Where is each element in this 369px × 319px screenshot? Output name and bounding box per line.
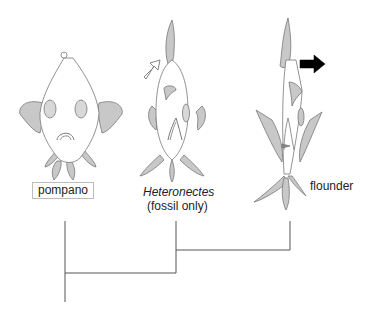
heteronectes-right-fin [196,106,205,130]
cladogram-tree [65,221,290,302]
diagram-canvas [0,0,369,319]
taxon-label-flounder: flounder [310,180,353,193]
heteronectes-pelvic-right [180,155,204,176]
heteronectes-dorsal-fin [166,20,174,64]
pompano-left-eye [44,100,56,118]
taxon-subtitle-heteronectes: (fossil only) [147,200,208,213]
taxon-label-heteronectes: Heteronectes [143,186,214,199]
flounder-eye [298,108,304,126]
heteronectes-tail-fin [170,160,175,182]
pompano-right-eye [75,100,87,118]
flounder-tail-fin [282,178,289,210]
heteronectes-eye [183,104,190,122]
pompano-anal-fin-left [52,161,61,180]
heteronectes-pelvic-left [140,155,164,176]
pompano-anal-fin-right [67,161,75,180]
solid-arrow-icon [300,55,325,73]
diagram: pompano Heteronectes (fossil only) floun… [0,0,369,319]
taxon-label-pompano: pompano [32,182,94,199]
pompano-illustration [20,52,123,180]
pompano-right-pectoral-fin [98,102,122,133]
heteronectes-illustration [140,20,205,182]
pompano-dorsal-tip [61,52,67,58]
flounder-pelvic-right [288,176,306,196]
flounder-left-fin [256,110,283,162]
outline-arrow-icon [144,60,160,79]
